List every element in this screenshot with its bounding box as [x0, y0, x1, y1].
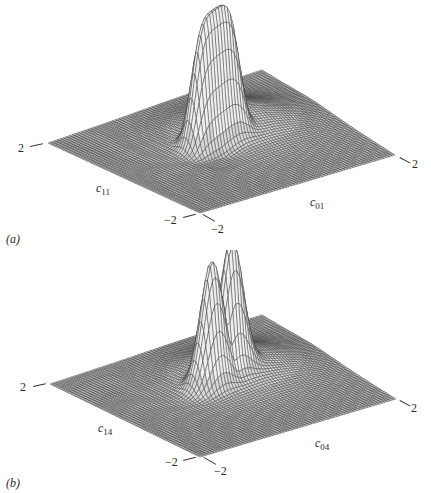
axis-sub: 11: [101, 187, 110, 197]
panel-label-a: (a): [6, 232, 20, 247]
axis-label-c14: c14: [98, 422, 112, 438]
axis-label-c11: c11: [96, 182, 110, 198]
tick-label-left-2: 2: [20, 381, 26, 393]
axis-label-c01: c01: [310, 196, 324, 212]
figure-panel-b: 2 c14 −2 −2 c04 2 (b): [0, 250, 431, 493]
tick-label-left-2: 2: [18, 142, 24, 154]
surface-plot-b: [0, 250, 431, 493]
surface-plot-a: [0, 0, 431, 250]
tick-label-front-left: −2: [165, 456, 178, 468]
tick-label-front-left: −2: [164, 214, 177, 226]
tick-label-front-right: −2: [211, 223, 224, 235]
axis-sub: 04: [320, 442, 329, 452]
panel-label-b: (b): [6, 476, 20, 491]
tick-label-front-right: −2: [214, 465, 227, 477]
axis-label-c04: c04: [315, 437, 329, 453]
tick-label-right-2: 2: [412, 158, 418, 170]
axis-sub: 14: [103, 427, 112, 437]
tick-label-right-2: 2: [411, 402, 417, 414]
figure-panel-a: 2 c11 −2 −2 c01 2 (a): [0, 0, 431, 250]
axis-sub: 01: [315, 201, 324, 211]
